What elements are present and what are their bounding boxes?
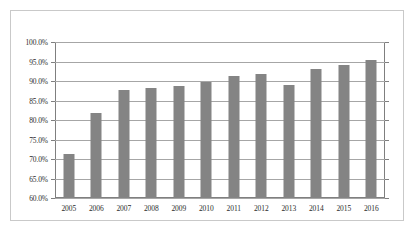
- bar-slot: 2010: [193, 42, 221, 198]
- y-axis-tick-right: [385, 198, 389, 199]
- x-axis-label: 2015: [336, 204, 351, 213]
- bar-slot: 2009: [165, 42, 193, 198]
- chart-figure: 100.0%95.0%90.0%85.0%80.0%75.0%70.0%65.0…: [10, 10, 404, 221]
- x-axis-label: 2009: [171, 204, 186, 213]
- x-axis-label: 2014: [309, 204, 324, 213]
- bar: [146, 88, 157, 198]
- bar: [256, 74, 267, 198]
- bar: [91, 113, 102, 198]
- x-axis-label: 2010: [199, 204, 214, 213]
- plot-area: 100.0%95.0%90.0%85.0%80.0%75.0%70.0%65.0…: [55, 42, 385, 198]
- gridline: [55, 198, 385, 199]
- y-axis-label: 75.0%: [29, 135, 48, 144]
- y-axis-label: 65.0%: [29, 174, 48, 183]
- y-axis-label: 60.0%: [29, 194, 48, 203]
- y-axis-tick-right: [385, 159, 389, 160]
- y-axis-tick: [51, 198, 55, 199]
- bar: [283, 85, 294, 198]
- x-axis-label: 2013: [281, 204, 296, 213]
- y-axis-tick-right: [385, 179, 389, 180]
- y-axis-label: 80.0%: [29, 116, 48, 125]
- bar-slot: 2007: [110, 42, 138, 198]
- y-axis-label: 100.0%: [25, 38, 48, 47]
- bar: [311, 69, 322, 198]
- bar-slot: 2011: [220, 42, 248, 198]
- bar-slot: 2014: [303, 42, 331, 198]
- x-axis-label: 2005: [61, 204, 76, 213]
- bar-slot: 2015: [330, 42, 358, 198]
- bar: [173, 86, 184, 198]
- y-axis-label: 90.0%: [29, 77, 48, 86]
- bar: [63, 154, 74, 198]
- y-axis-label: 95.0%: [29, 57, 48, 66]
- bar: [338, 65, 349, 198]
- x-axis-label: 2006: [89, 204, 104, 213]
- bar-slot: 2016: [358, 42, 386, 198]
- bar-slot: 2008: [138, 42, 166, 198]
- y-axis-tick-right: [385, 62, 389, 63]
- bar-slot: 2013: [275, 42, 303, 198]
- y-axis-tick-right: [385, 42, 389, 43]
- y-axis-label: 85.0%: [29, 96, 48, 105]
- bar: [228, 76, 239, 198]
- bar-slot: 2006: [83, 42, 111, 198]
- x-axis-label: 2011: [227, 204, 241, 213]
- x-axis-label: 2016: [364, 204, 379, 213]
- bar-slot: 2012: [248, 42, 276, 198]
- x-axis-label: 2012: [254, 204, 269, 213]
- y-axis-tick-right: [385, 140, 389, 141]
- bar: [366, 60, 377, 198]
- bar-slot: 2005: [55, 42, 83, 198]
- x-axis-label: 2008: [144, 204, 159, 213]
- x-axis-label: 2007: [116, 204, 131, 213]
- bar: [118, 90, 129, 198]
- y-axis-tick-right: [385, 81, 389, 82]
- y-axis-tick-right: [385, 120, 389, 121]
- y-axis-tick-right: [385, 101, 389, 102]
- y-axis-label: 70.0%: [29, 155, 48, 164]
- bar: [201, 82, 212, 198]
